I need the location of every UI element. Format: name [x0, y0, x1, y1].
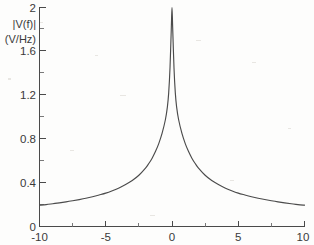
y-axis-major-ticks [40, 8, 46, 227]
x-tick-label-0: 0 [169, 231, 175, 243]
axes-group [40, 7, 306, 227]
y-tick-label-0p4: 0.4 [20, 177, 37, 189]
y-tick-label-2: 2 [30, 2, 36, 14]
y-axis-title-line1: |V(f)| [13, 18, 36, 30]
y-tick-label-1p6: 1.6 [20, 45, 36, 57]
paper-noise [8, 22, 291, 216]
y-tick-label-0p8: 0.8 [20, 133, 36, 145]
x-tick-label-minus5: -5 [101, 231, 111, 243]
x-tick-label-minus10: -10 [31, 231, 48, 243]
y-tick-label-1p2: 1.2 [20, 89, 36, 101]
spectrum-curve [40, 8, 305, 206]
y-axis-title: |V(f)| (V/Hz) [5, 18, 36, 45]
figure-container: 2 1.6 1.2 0.8 0.4 0 -10 -5 0 5 10 |V(f)|… [0, 0, 314, 245]
x-axis-tick-labels: -10 -5 0 5 10 [31, 231, 309, 243]
y-axis-title-line2: (V/Hz) [5, 33, 36, 45]
spectrum-plot: 2 1.6 1.2 0.8 0.4 0 -10 -5 0 5 10 |V(f)|… [0, 0, 314, 245]
x-axis-major-ticks [40, 221, 305, 227]
x-tick-label-5: 5 [235, 231, 241, 243]
x-tick-label-10: 10 [297, 231, 310, 243]
y-axis-minor-ticks [40, 29, 44, 205]
